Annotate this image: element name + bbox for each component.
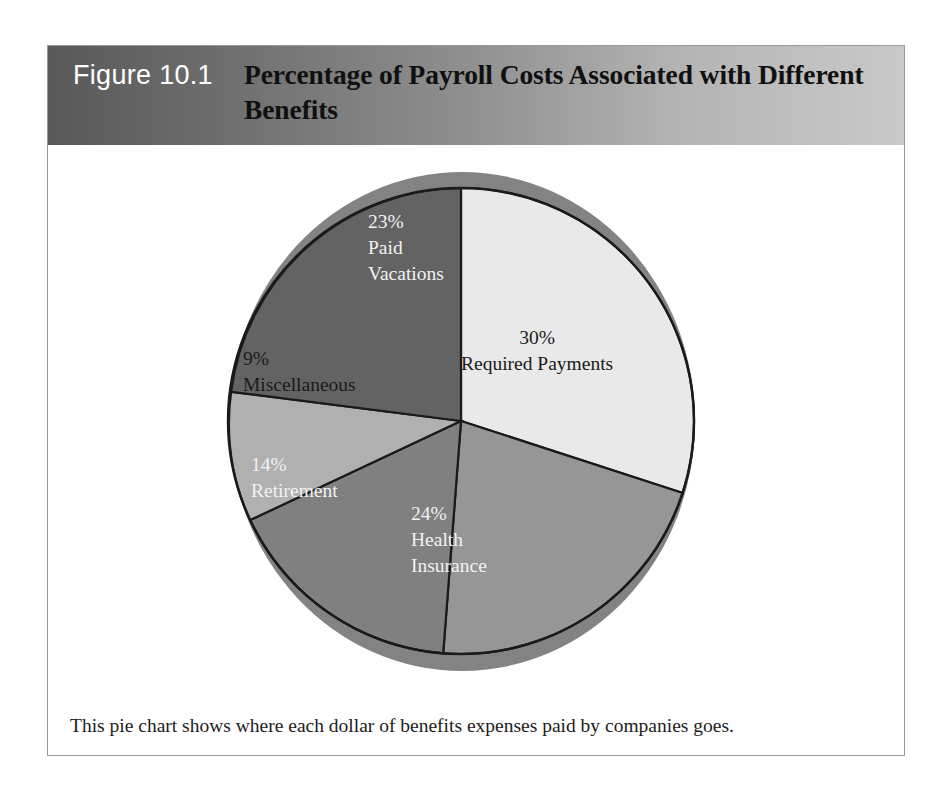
pie-slice-paid-vacations [231,188,461,421]
chart-body: 23% Paid Vacations 30% Required Payments… [48,145,904,701]
figure-number: Figure 10.1 [73,60,213,91]
figure-caption-text: This pie chart shows where each dollar o… [70,715,734,737]
pie-slices-svg [211,156,711,686]
figure-title: Percentage of Payroll Costs Associated w… [244,58,884,127]
pie-chart: 23% Paid Vacations 30% Required Payments… [211,156,711,686]
figure-frame: Figure 10.1 Percentage of Payroll Costs … [47,45,905,756]
figure-header-band: Figure 10.1 Percentage of Payroll Costs … [48,46,904,145]
figure-caption: This pie chart shows where each dollar o… [48,701,904,757]
